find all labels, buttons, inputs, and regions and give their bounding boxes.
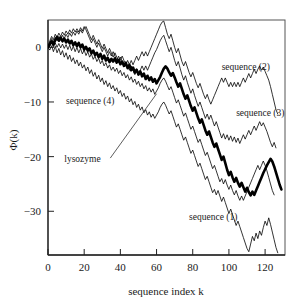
y-tick-label: −30 [24, 205, 42, 217]
x-tick-label: 40 [115, 261, 127, 273]
y-tick-label: −20 [24, 151, 42, 163]
x-tick-label: 20 [79, 261, 91, 273]
y-tick-label: −10 [24, 96, 42, 108]
x-tick-label: 100 [221, 261, 238, 273]
annotation-sequence-3-: sequence (3) [236, 108, 284, 119]
annotation-sequence-4-: sequence (4) [66, 96, 114, 107]
y-tick-label: 0 [36, 41, 42, 53]
x-tick-label: 120 [257, 261, 274, 273]
annotation-sequence-1-: sequence (1) [189, 212, 237, 223]
x-axis-title: sequence index k [128, 285, 204, 297]
x-tick-label: 0 [45, 261, 51, 273]
y-axis-title: Φ(k) [7, 129, 20, 150]
annotation-lysozyme: lysozyme [64, 154, 100, 164]
x-tick-label: 80 [187, 261, 199, 273]
lysozyme-hydrophobicity-plot: 020406080100120 0−10−20−30 sequence (2)s… [0, 0, 298, 307]
x-tick-label: 60 [151, 261, 163, 273]
annotation-sequence-2-: sequence (2) [222, 62, 270, 73]
